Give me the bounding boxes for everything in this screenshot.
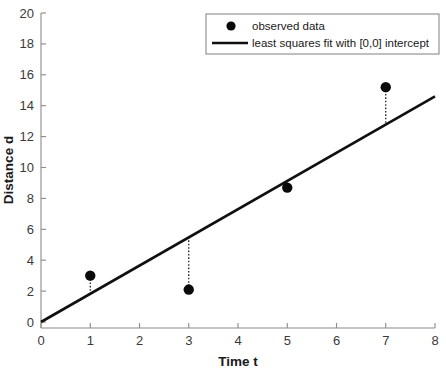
y-tick-label: 16 bbox=[20, 67, 34, 82]
x-axis-ticks: 012345678 bbox=[37, 323, 438, 348]
y-tick-label: 12 bbox=[20, 129, 34, 144]
fit-line-path bbox=[41, 96, 435, 322]
observed-data-points bbox=[85, 82, 391, 295]
x-tick-label: 3 bbox=[185, 333, 192, 348]
x-tick-label: 8 bbox=[431, 333, 438, 348]
data-point-marker bbox=[282, 182, 292, 192]
y-tick-label: 0 bbox=[27, 315, 34, 330]
residual-stems bbox=[90, 87, 386, 294]
x-tick-label: 4 bbox=[234, 333, 241, 348]
data-point-marker bbox=[85, 270, 95, 280]
y-tick-label: 14 bbox=[20, 98, 34, 113]
axes-lines bbox=[41, 13, 435, 328]
y-axis-title: Distance d bbox=[1, 136, 16, 204]
data-point-marker bbox=[381, 82, 391, 92]
x-tick-label: 6 bbox=[333, 333, 340, 348]
y-tick-label: 6 bbox=[27, 222, 34, 237]
chart-figure: 02468101214161820 012345678 Time t Dista… bbox=[0, 0, 446, 376]
legend-marker-observed-data-icon bbox=[226, 21, 235, 30]
x-axis-title: Time t bbox=[218, 354, 258, 369]
y-tick-label: 20 bbox=[20, 6, 34, 21]
y-tick-label: 18 bbox=[20, 36, 34, 51]
y-axis-ticks: 02468101214161820 bbox=[20, 6, 46, 330]
x-tick-label: 1 bbox=[87, 333, 94, 348]
x-tick-label: 0 bbox=[37, 333, 44, 348]
y-tick-label: 8 bbox=[27, 191, 34, 206]
y-tick-label: 2 bbox=[27, 284, 34, 299]
y-tick-label: 4 bbox=[27, 253, 34, 268]
data-point-marker bbox=[184, 284, 194, 294]
legend-label-fit-line: least squares fit with [0,0] intercept bbox=[252, 37, 430, 49]
x-tick-label: 2 bbox=[136, 333, 143, 348]
x-tick-label: 5 bbox=[284, 333, 291, 348]
x-tick-label: 7 bbox=[382, 333, 389, 348]
legend-label-observed-data: observed data bbox=[252, 20, 325, 32]
least-squares-fit-line bbox=[41, 96, 435, 322]
scatter-plot-svg: 02468101214161820 012345678 Time t Dista… bbox=[0, 0, 446, 376]
chart-legend: observed data least squares fit with [0,… bbox=[206, 14, 439, 54]
y-tick-label: 10 bbox=[20, 160, 34, 175]
